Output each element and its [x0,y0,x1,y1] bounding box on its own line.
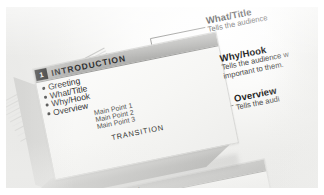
photo-inner-frame: 2 BODY Main Point 1 Numbers/Examples TRA… [6,7,318,188]
callout-overview: Overview Tells the audi [233,84,280,112]
bullet-dot-icon [44,95,48,99]
introduction-card: 1 INTRODUCTION Greeting What/Title [32,32,237,179]
photo-canvas: 2 BODY Main Point 1 Numbers/Examples TRA… [0,0,324,195]
callout-what-title: What/Title Tells the audience [205,7,269,35]
callout-why-hook: Why/Hook Tells the audience w important … [219,40,292,82]
bullet-dot-icon [45,104,49,108]
bullet-dot-icon [47,112,51,116]
bullet-dot-icon [42,87,46,91]
diagram-plane: 2 BODY Main Point 1 Numbers/Examples TRA… [6,7,318,188]
